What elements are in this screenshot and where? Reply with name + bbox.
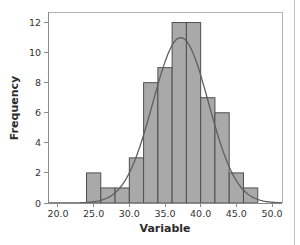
histogram-bar: [87, 173, 101, 203]
histogram-bar: [144, 83, 158, 203]
y-tick-label: 0: [35, 198, 41, 209]
x-tick-label: 35.0: [154, 208, 175, 219]
histogram-bar: [186, 23, 200, 203]
y-tick-label: 12: [29, 17, 41, 28]
chart-panel: 20.025.030.035.040.045.050.0 024681012 V…: [0, 0, 300, 245]
histogram-bar: [129, 158, 143, 203]
y-axis-title: Frequency: [8, 76, 21, 140]
x-tick-label: 20.0: [47, 208, 68, 219]
y-tick-label: 4: [35, 137, 41, 148]
x-tick-label: 30.0: [119, 208, 140, 219]
x-axis-ticks: 20.025.030.035.040.045.050.0: [47, 203, 282, 219]
y-axis-ticks: 024681012: [29, 17, 48, 208]
histogram-bar: [158, 68, 172, 203]
y-tick-label: 8: [35, 77, 41, 88]
x-axis-title: Variable: [139, 222, 190, 235]
page-right-border: [294, 0, 295, 245]
y-tick-label: 10: [29, 47, 41, 58]
histogram-bar: [215, 113, 229, 203]
x-tick-label: 25.0: [83, 208, 104, 219]
x-tick-label: 40.0: [190, 208, 211, 219]
histogram-bar: [201, 98, 215, 203]
histogram-bars: [87, 23, 258, 203]
histogram-bar: [172, 23, 186, 203]
x-tick-label: 50.0: [261, 208, 282, 219]
y-tick-label: 2: [35, 167, 41, 178]
histogram-bar: [101, 188, 115, 203]
x-tick-label: 45.0: [226, 208, 247, 219]
y-tick-label: 6: [35, 107, 41, 118]
histogram-chart: 20.025.030.035.040.045.050.0 024681012 V…: [0, 0, 300, 245]
